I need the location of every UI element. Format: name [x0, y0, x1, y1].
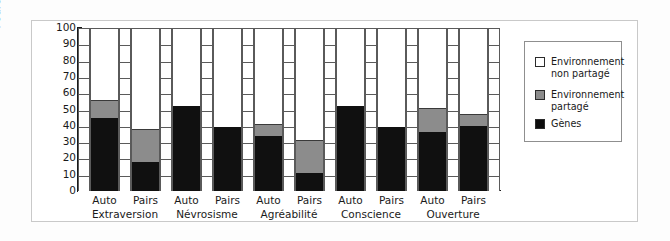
- gridline-60: [161, 94, 171, 95]
- legend-swatch-shared-environment: [535, 90, 545, 100]
- gridline-10: [243, 176, 253, 177]
- gridline-30: [489, 143, 499, 144]
- gridline-60: [448, 94, 458, 95]
- gridline-70: [243, 78, 253, 79]
- gridline-70: [366, 78, 376, 79]
- segment-genes: [255, 136, 282, 191]
- gridline-50: [243, 111, 253, 112]
- gridline-70: [202, 78, 212, 79]
- gridline-80: [448, 62, 458, 63]
- y-tick-60: 60: [46, 86, 76, 98]
- gridline-30: [243, 143, 253, 144]
- y-tick-90: 90: [46, 37, 76, 49]
- segment-genes: [419, 132, 446, 191]
- gridline-70: [284, 78, 294, 79]
- bar-ouverture-pairs[interactable]: [459, 28, 488, 191]
- gridline-60: [284, 94, 294, 95]
- x-group-label: Ouverture: [403, 208, 503, 220]
- gridline-20: [120, 159, 130, 160]
- segment-genes: [173, 106, 200, 191]
- bar-extraversion-auto[interactable]: [90, 28, 119, 191]
- gridline-50: [202, 111, 212, 112]
- chart-legend: Environnement non partagéEnvironnement p…: [524, 41, 622, 142]
- gridline-70: [448, 78, 458, 79]
- gridline-20: [366, 159, 376, 160]
- bar-agr-abilit-pairs[interactable]: [295, 28, 324, 191]
- segment-genes: [214, 127, 241, 191]
- gridline-90: [202, 45, 212, 46]
- gridline-10: [202, 176, 212, 177]
- bar-ouverture-auto[interactable]: [418, 28, 447, 191]
- gridline-30: [161, 143, 171, 144]
- gridline-70: [79, 78, 89, 79]
- gridline-40: [448, 127, 458, 128]
- legend-label: Gènes: [551, 118, 581, 130]
- gridline-ladder: [242, 28, 254, 191]
- legend-label: Environnement partagé: [551, 89, 624, 112]
- gridline-30: [448, 143, 458, 144]
- gridline-80: [120, 62, 130, 63]
- gridline-10: [489, 176, 499, 177]
- gridline-ladder: [201, 28, 213, 191]
- bar-extraversion-pairs[interactable]: [131, 28, 160, 191]
- gridline-10: [448, 176, 458, 177]
- gridline-10: [284, 176, 294, 177]
- y-tick-40: 40: [46, 119, 76, 131]
- gridline-50: [161, 111, 171, 112]
- bar-conscience-auto[interactable]: [336, 28, 365, 191]
- gridline-80: [284, 62, 294, 63]
- gridline-90: [489, 45, 499, 46]
- bar-agr-abilit-auto[interactable]: [254, 28, 283, 191]
- gridline-10: [79, 176, 89, 177]
- legend-label: Environnement non partagé: [551, 56, 624, 79]
- segment-shared-environment: [255, 124, 282, 135]
- legend-item-genes: Gènes: [535, 118, 581, 130]
- gridline-20: [325, 159, 335, 160]
- gridline-ladder: [447, 28, 459, 191]
- figure: Pourcentage de variance 1009080706050403…: [0, 0, 670, 241]
- bar-conscience-pairs[interactable]: [377, 28, 406, 191]
- gridline-40: [489, 127, 499, 128]
- y-tick-10: 10: [46, 168, 76, 180]
- y-axis-title: Pourcentage de variance: [0, 0, 6, 42]
- gridline-10: [407, 176, 417, 177]
- gridline-80: [161, 62, 171, 63]
- gridline-60: [489, 94, 499, 95]
- segment-shared-environment: [460, 114, 487, 125]
- gridline-90: [325, 45, 335, 46]
- gridline-ladder: [324, 28, 336, 191]
- gridline-10: [161, 176, 171, 177]
- gridline-40: [325, 127, 335, 128]
- gridline-30: [79, 143, 89, 144]
- gridline-80: [489, 62, 499, 63]
- gridline-60: [366, 94, 376, 95]
- gridline-30: [284, 143, 294, 144]
- y-tick-20: 20: [46, 151, 76, 163]
- gridline-40: [79, 127, 89, 128]
- gridline-30: [407, 143, 417, 144]
- gridline-20: [284, 159, 294, 160]
- gridline-80: [243, 62, 253, 63]
- gridline-50: [407, 111, 417, 112]
- segment-genes: [132, 162, 159, 191]
- bar-n-vrosisme-auto[interactable]: [172, 28, 201, 191]
- segment-shared-environment: [296, 140, 323, 173]
- gridline-ladder: [283, 28, 295, 191]
- segment-genes: [460, 126, 487, 191]
- gridline-20: [79, 159, 89, 160]
- gridline-80: [366, 62, 376, 63]
- gridline-ladder: [488, 28, 500, 191]
- gridline-90: [161, 45, 171, 46]
- gridline-30: [366, 143, 376, 144]
- gridline-40: [161, 127, 171, 128]
- x-tick-label: Pairs: [449, 194, 499, 206]
- gridline-50: [120, 111, 130, 112]
- gridline-60: [325, 94, 335, 95]
- y-tick-70: 70: [46, 70, 76, 82]
- gridline-60: [243, 94, 253, 95]
- plot-area: [78, 28, 500, 191]
- gridline-ladder: [119, 28, 131, 191]
- bar-n-vrosisme-pairs[interactable]: [213, 28, 242, 191]
- segment-genes: [337, 106, 364, 191]
- gridline-70: [325, 78, 335, 79]
